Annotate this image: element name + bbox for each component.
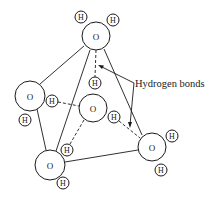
edge-top-right <box>104 49 142 135</box>
hydrogen-label: H <box>110 16 116 25</box>
arrowhead-top <box>98 65 104 69</box>
hydrogen-label: H <box>22 116 28 125</box>
edge-top-left <box>40 46 84 84</box>
molecule-left: O H H <box>15 81 58 126</box>
hydrogen-label: H <box>60 179 66 188</box>
hydrogen-label: H <box>78 13 84 22</box>
edge-left-bottom <box>37 109 46 150</box>
oxygen-label: O <box>47 161 54 171</box>
arrow-to-right-hbond <box>130 83 134 125</box>
oxygen-label: O <box>149 143 156 153</box>
oxygen-label: O <box>93 32 100 42</box>
hbond-center-bottom <box>70 120 84 144</box>
molecule-top: O H H <box>75 11 119 50</box>
hydrogen-bonds-label: Hydrogen bonds <box>135 78 205 89</box>
hydrogen-label: H <box>111 113 117 122</box>
molecule-center: O H H <box>79 77 120 123</box>
water-tetrahedron-diagram: Hydrogen bonds O H H O H H O H H O H H <box>0 0 214 203</box>
hydrogen-label: H <box>169 132 175 141</box>
edge-bottom-right <box>65 150 138 162</box>
oxygen-label: O <box>90 104 97 114</box>
hydrogen-label: H <box>158 166 164 175</box>
hbond-left-center <box>58 102 79 106</box>
hydrogen-label: H <box>64 146 70 155</box>
arrowhead-right <box>128 122 132 128</box>
hydrogen-label: H <box>92 79 98 88</box>
hbond-top-center <box>95 50 96 77</box>
hydrogen-label: H <box>49 97 55 106</box>
oxygen-label: O <box>27 92 34 102</box>
molecule-bottom: O H H <box>35 144 73 189</box>
arrow-to-top-hbond <box>100 66 134 83</box>
molecule-right: O H H <box>138 130 178 176</box>
